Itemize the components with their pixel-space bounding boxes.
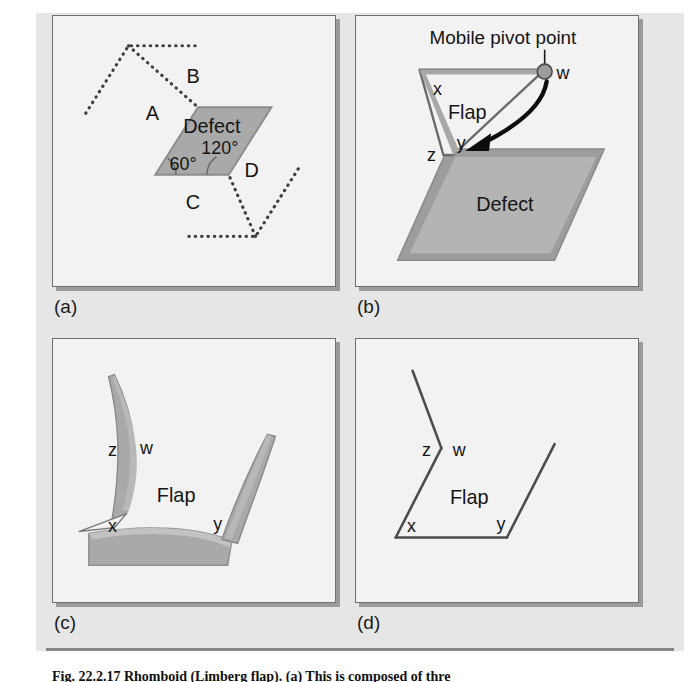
panel-b-box: Mobile pivot point w x Flap y z Defect — [355, 15, 639, 287]
figure-root: Defect 60° 120° A B C D (a) — [0, 0, 688, 682]
label-flap: Flap — [450, 486, 489, 508]
panel-a-box: Defect 60° 120° A B C D — [52, 15, 336, 287]
label-flap-a: A — [146, 102, 160, 124]
figure-caption: Fig. 22.2.17 Rhomboid (Limberg flap). (a… — [52, 668, 676, 682]
panel-d-diagram: z w Flap x y — [356, 339, 638, 602]
panel-d: z w Flap x y (d) — [355, 338, 639, 648]
caption-rule — [46, 648, 674, 651]
flap-line-y-limb — [507, 444, 555, 537]
panel-a-label: (a) — [54, 296, 77, 318]
label-vertex-x: x — [407, 516, 416, 536]
label-vertex-y: y — [457, 133, 466, 153]
panel-d-box: z w Flap x y — [355, 338, 639, 603]
label-vertex-w: w — [556, 63, 570, 83]
panel-c-diagram: z w Flap x y — [53, 339, 335, 602]
label-vertex-z: z — [427, 145, 436, 165]
label-vertex-w: w — [139, 438, 153, 458]
panel-b-diagram: Mobile pivot point w x Flap y z Defect — [356, 16, 638, 286]
panel-b: Mobile pivot point w x Flap y z Defect (… — [355, 15, 639, 335]
panel-b-label: (b) — [357, 296, 380, 318]
label-defect: Defect — [476, 193, 534, 215]
flap-line-w-x — [396, 448, 442, 537]
dotted-outline-d-inner — [229, 175, 256, 237]
label-angle-60: 60° — [170, 154, 197, 174]
label-defect: Defect — [183, 115, 241, 137]
dotted-outline-ab — [86, 46, 198, 114]
label-flap: Flap — [157, 484, 196, 506]
flap-line-top-limb — [413, 371, 442, 448]
label-vertex-y: y — [213, 514, 222, 534]
pivot-point-dot — [537, 64, 552, 79]
label-vertex-w: w — [452, 440, 466, 460]
panel-a: Defect 60° 120° A B C D (a) — [52, 15, 336, 335]
label-vertex-x: x — [433, 79, 442, 99]
flap-top-edge-highlight — [420, 70, 545, 75]
label-angle-120: 120° — [201, 138, 238, 158]
label-flap: Flap — [448, 101, 487, 123]
label-flap-b: B — [186, 66, 199, 88]
label-mobile-pivot-point: Mobile pivot point — [430, 27, 578, 48]
panel-d-label: (d) — [357, 612, 380, 634]
panel-c-label: (c) — [54, 612, 76, 634]
panel-c: z w Flap x y (c) — [52, 338, 336, 648]
panel-a-diagram: Defect 60° 120° A B C D — [53, 16, 335, 286]
dotted-outline-cd — [186, 169, 298, 237]
label-vertex-z: z — [108, 440, 117, 460]
label-flap-c: C — [186, 191, 200, 213]
label-vertex-x: x — [108, 516, 117, 536]
panel-c-box: z w Flap x y — [52, 338, 336, 603]
flap-right-limb-inner — [226, 434, 272, 539]
label-vertex-z: z — [422, 440, 431, 460]
label-vertex-y: y — [497, 514, 506, 534]
label-flap-d: D — [244, 159, 258, 181]
